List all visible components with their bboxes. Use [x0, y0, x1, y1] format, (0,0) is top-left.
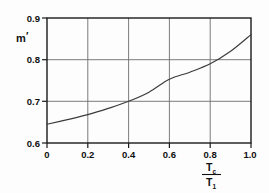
y-tickmarks: [42, 18, 47, 143]
x-ticklabel-0.4: 0.4: [122, 149, 136, 160]
x-ticklabel-0: 0: [44, 149, 49, 160]
y-axis-title: m ′: [16, 31, 29, 44]
plot-frame: [47, 18, 251, 143]
vertical-gridlines: [88, 18, 210, 143]
y-axis-title-prime: ′: [26, 31, 29, 42]
x-ticklabels: 0 0.2 0.4 0.6 0.8 1.0: [44, 149, 256, 160]
x-ticklabel-0.2: 0.2: [81, 149, 94, 160]
y-axis-title-base: m: [16, 32, 26, 44]
x-ticklabel-0.8: 0.8: [204, 149, 217, 160]
y-ticklabel-0.9: 0.9: [27, 13, 40, 24]
x-ticklabel-0.6: 0.6: [163, 149, 176, 160]
y-ticklabel-0.8: 0.8: [27, 54, 40, 65]
x-tickmarks: [47, 143, 251, 148]
data-curve: [47, 35, 251, 125]
chart-figure: 0.9 0.8 0.7 0.6 0 0.2 0.4 0.6 0.8 1.0 m …: [0, 0, 269, 193]
x-axis-title-denominator: T1: [206, 176, 216, 190]
x-axis-numerator-subscript: c: [212, 168, 216, 175]
x-ticklabel-1.0: 1.0: [243, 149, 256, 160]
y-ticklabels: 0.9 0.8 0.7 0.6: [27, 13, 40, 149]
x-axis-denominator-subscript: 1: [212, 183, 216, 190]
x-axis-title: Tc T1: [202, 161, 221, 190]
horizontal-gridlines: [47, 60, 251, 102]
y-ticklabel-0.7: 0.7: [27, 96, 40, 107]
line-chart: 0.9 0.8 0.7 0.6 0 0.2 0.4 0.6 0.8 1.0 m …: [0, 0, 269, 193]
x-axis-title-numerator: Tc: [206, 161, 216, 175]
y-ticklabel-0.6: 0.6: [27, 138, 40, 149]
